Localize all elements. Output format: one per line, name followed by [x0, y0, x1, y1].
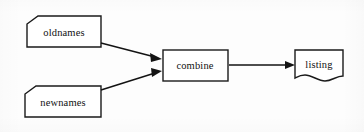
edge-newnames-to-combine[interactable] [101, 68, 162, 90]
node-shape-listing[interactable] [295, 50, 343, 81]
diagram-graphics [0, 0, 364, 132]
node-shape-combine[interactable] [163, 50, 228, 81]
arrowhead-icon [285, 61, 295, 69]
edge-combine-to-listing[interactable] [229, 61, 295, 69]
edge-oldnames-to-combine[interactable] [101, 43, 162, 62]
edge-line [101, 43, 155, 57]
node-shape-oldnames[interactable] [27, 16, 101, 47]
edge-line [101, 73, 155, 90]
arrowhead-icon [150, 53, 162, 62]
diagram-canvas: oldnames newnames combine listing [0, 0, 364, 132]
node-shape-newnames[interactable] [25, 86, 101, 117]
arrowhead-icon [151, 68, 162, 77]
